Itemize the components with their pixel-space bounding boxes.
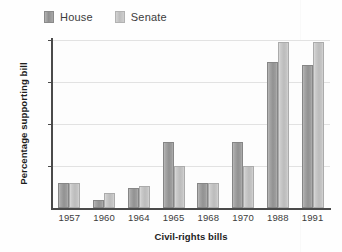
bar-group-1965	[156, 40, 191, 208]
bar-senate-1970	[243, 166, 254, 208]
x-axis-tick-label-1968: 1968	[191, 212, 226, 223]
bar-house-1968	[197, 183, 208, 208]
bar-house-1965	[163, 142, 174, 208]
bar-house-1970	[232, 142, 243, 208]
bar-group-1991	[295, 40, 330, 208]
x-axis-tick-label-1957: 1957	[52, 212, 87, 223]
bar-senate-1957	[69, 183, 80, 208]
bar-group-1968	[191, 40, 226, 208]
bar-group-1970	[226, 40, 261, 208]
bar-group-1988	[261, 40, 296, 208]
x-axis-line	[51, 208, 331, 210]
bar-house-1960	[93, 200, 104, 208]
x-axis-tick-label-1960: 1960	[87, 212, 122, 223]
bar-house-1964	[128, 188, 139, 208]
bar-senate-1965	[174, 166, 185, 208]
bar-group-1957	[52, 40, 87, 208]
bar-house-1988	[267, 62, 278, 208]
bar-chart-figure: House Senate Percentage supporting bill …	[0, 0, 342, 252]
legend-item-house: House	[44, 11, 93, 23]
legend-label-senate: Senate	[131, 11, 167, 23]
bar-house-1957	[58, 183, 69, 208]
bar-senate-1964	[139, 186, 150, 208]
x-axis-tick-label-1991: 1991	[295, 212, 330, 223]
x-axis-tick-label-1964: 1964	[122, 212, 157, 223]
bar-senate-1991	[313, 42, 324, 208]
x-axis-tick-label-1988: 1988	[261, 212, 296, 223]
x-axis-tick-label-1970: 1970	[226, 212, 261, 223]
bar-senate-1988	[278, 42, 289, 208]
legend-label-house: House	[60, 11, 93, 23]
x-axis-tick-label-1965: 1965	[156, 212, 191, 223]
x-axis-title: Civil-rights bills	[52, 231, 330, 242]
bar-house-1991	[302, 65, 313, 208]
y-axis-title: Percentage supporting bill	[18, 44, 29, 204]
bar-series-container	[52, 40, 330, 208]
chart-legend: House Senate	[44, 9, 167, 25]
legend-item-senate: Senate	[115, 11, 167, 23]
house-swatch-icon	[44, 11, 54, 23]
bar-senate-1960	[104, 193, 115, 208]
bar-group-1964	[122, 40, 157, 208]
bar-group-1960	[87, 40, 122, 208]
senate-swatch-icon	[115, 11, 125, 23]
x-axis-tick-labels: 19571960196419651968197019881991	[52, 212, 330, 223]
bar-senate-1968	[208, 183, 219, 208]
